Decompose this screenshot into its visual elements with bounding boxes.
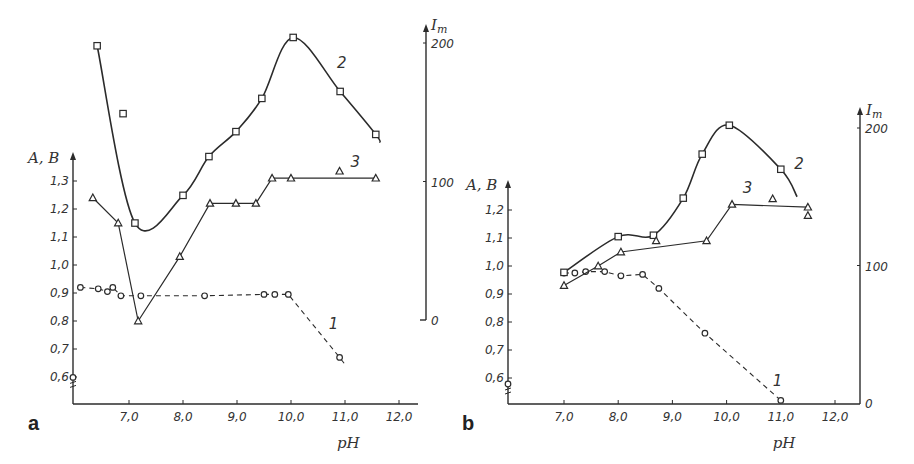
x-tick-label: 7,0 xyxy=(119,410,138,424)
y-left-tick-label: 1,1 xyxy=(485,231,504,245)
x-tick-label: 8,0 xyxy=(173,410,192,424)
curve-label-2: 2 xyxy=(337,54,347,72)
x-axis-title: pH xyxy=(773,434,797,452)
circle-marker xyxy=(261,292,267,298)
panel-label-b: b xyxy=(462,412,474,434)
y-left-tick-label: 0,6 xyxy=(485,371,504,385)
square-marker xyxy=(132,220,138,226)
chart-panel-b: 7,08,09,010,011,012,00,60,70,80,91,01,11… xyxy=(464,101,888,452)
circle-marker xyxy=(78,285,84,291)
series-2: 2 xyxy=(561,122,804,276)
triangle-marker xyxy=(804,212,811,219)
y-right-tick-label: 200 xyxy=(431,37,454,51)
circle-marker xyxy=(572,270,578,276)
y-left-tick-label: 1,2 xyxy=(50,202,69,216)
circle-marker xyxy=(138,293,144,299)
im-subscript: m xyxy=(872,108,882,121)
triangle-marker xyxy=(595,262,602,269)
curve-line xyxy=(93,178,376,321)
circle-marker xyxy=(505,381,511,387)
y-right-tick-label: 100 xyxy=(865,260,888,274)
triangle-marker xyxy=(560,282,567,289)
curve-label-2: 2 xyxy=(794,155,804,173)
triangle-marker xyxy=(336,167,343,174)
circle-marker xyxy=(702,330,708,336)
circle-marker xyxy=(202,293,208,299)
circle-marker xyxy=(272,292,278,298)
x-tick-label: 10,0 xyxy=(278,410,305,424)
square-marker xyxy=(259,95,265,101)
circle-marker xyxy=(640,272,646,278)
y-axis-left-arrow xyxy=(505,180,511,188)
curve-line xyxy=(564,272,781,401)
x-tick-label: 7,0 xyxy=(554,410,573,424)
y-left-tick-label: 1,3 xyxy=(50,174,69,188)
square-marker xyxy=(180,192,186,198)
y-axis-left-arrow xyxy=(70,152,76,160)
y-left-axis-title: A, B xyxy=(464,176,497,194)
y-left-tick-label: 1,1 xyxy=(50,230,69,244)
circle-marker xyxy=(70,375,76,381)
y-left-tick-label: 1,0 xyxy=(50,258,69,272)
circle-marker xyxy=(110,285,116,291)
circle-marker xyxy=(286,292,292,298)
y-right-axis-title: Im xyxy=(430,16,447,36)
y-left-tick-label: 0,7 xyxy=(50,342,69,356)
square-marker xyxy=(337,88,343,94)
y-left-tick-label: 0,8 xyxy=(50,314,69,328)
y-axis-right-arrow xyxy=(857,107,863,115)
y-right-axis-title: Im xyxy=(865,101,882,121)
x-tick-label: 11,0 xyxy=(767,410,794,424)
figure: 7,08,09,010,011,012,00,60,70,80,91,01,11… xyxy=(0,0,914,464)
y-right-tick-label: 0 xyxy=(431,314,439,328)
panel-label-a: a xyxy=(28,412,40,434)
curve-label-3: 3 xyxy=(350,153,360,171)
square-marker xyxy=(726,122,732,128)
circle-marker xyxy=(105,289,111,295)
series-1: 1 xyxy=(78,285,345,365)
circle-marker xyxy=(602,269,608,275)
series-3: 3 xyxy=(89,153,379,324)
series-1: 1 xyxy=(561,269,783,403)
square-marker xyxy=(290,34,296,40)
chart-panel-a: 7,08,09,010,011,012,00,60,70,80,91,01,11… xyxy=(26,16,454,452)
x-tick-label: 11,0 xyxy=(332,410,359,424)
triangle-marker xyxy=(89,194,96,201)
circle-marker xyxy=(95,286,101,292)
square-marker xyxy=(778,166,784,172)
y-left-tick-label: 0,7 xyxy=(485,343,504,357)
curve-line xyxy=(564,204,808,285)
x-tick-label: 8,0 xyxy=(609,410,628,424)
y-axis-right-arrow xyxy=(423,24,429,32)
square-marker xyxy=(561,269,567,275)
triangle-marker xyxy=(769,195,776,202)
x-tick-label: 9,0 xyxy=(227,410,246,424)
curve-label-3: 3 xyxy=(743,179,753,197)
x-tick-label: 10,0 xyxy=(713,410,740,424)
x-axis-title: pH xyxy=(337,434,361,452)
x-tick-label: 12,0 xyxy=(822,410,849,424)
square-marker xyxy=(699,151,705,157)
square-marker xyxy=(615,233,621,239)
y-right-tick-label: 0 xyxy=(865,397,873,411)
square-marker xyxy=(373,131,379,137)
y-left-tick-label: 0,9 xyxy=(485,287,504,301)
y-left-tick-label: 0,9 xyxy=(50,286,69,300)
circle-marker xyxy=(778,398,784,404)
y-left-tick-label: 0,6 xyxy=(50,370,69,384)
circle-marker xyxy=(337,355,343,361)
y-left-tick-label: 1,0 xyxy=(485,259,504,273)
curve-label-1: 1 xyxy=(773,372,783,390)
y-left-tick-label: 0,8 xyxy=(485,315,504,329)
circle-marker xyxy=(618,273,624,279)
square-marker xyxy=(120,110,126,116)
circle-marker xyxy=(118,293,124,299)
triangle-marker xyxy=(176,253,183,260)
square-marker xyxy=(680,195,686,201)
square-marker xyxy=(94,43,100,49)
y-left-axis-title: A, B xyxy=(26,149,59,167)
curve-label-1: 1 xyxy=(329,315,339,333)
y-right-tick-label: 200 xyxy=(865,122,888,136)
square-marker xyxy=(206,153,212,159)
y-left-tick-label: 1,2 xyxy=(485,203,504,217)
